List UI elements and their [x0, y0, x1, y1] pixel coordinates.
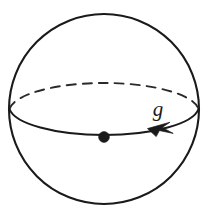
sphere-diagram: g: [0, 0, 209, 218]
loop-label: g: [153, 97, 164, 121]
figure-container: g: [0, 0, 209, 218]
equator-back-arc-dashed: [10, 83, 199, 109]
basepoint-dot: [99, 132, 110, 143]
direction-arrowhead: [148, 122, 174, 136]
sphere-outline: [9, 14, 199, 204]
